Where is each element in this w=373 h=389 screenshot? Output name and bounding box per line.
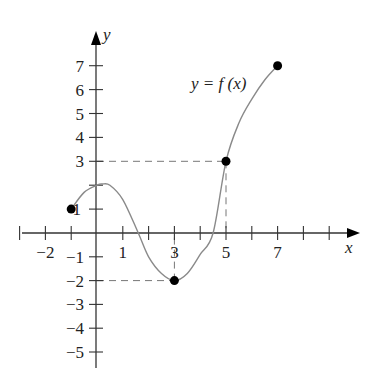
- function-graph: −21357765431−1−2−3−4−5 y x y = f (x): [0, 0, 373, 389]
- x-tick-label: 3: [170, 243, 179, 262]
- dashed-guide-lines: [97, 161, 226, 280]
- y-axis-arrow-icon: [91, 31, 101, 45]
- x-tick-label: 7: [273, 243, 282, 262]
- y-tick-label: −4: [66, 319, 85, 338]
- x-tick-label: 5: [222, 243, 231, 262]
- data-point: [170, 276, 179, 285]
- y-tick-label: 6: [76, 81, 85, 100]
- data-point: [273, 61, 282, 70]
- x-tick-label: −2: [36, 243, 54, 262]
- y-tick-label: −1: [66, 248, 84, 267]
- x-tick-label: 1: [119, 243, 128, 262]
- y-tick-label: −5: [66, 343, 84, 362]
- x-axis-label: x: [344, 238, 353, 257]
- y-tick-label: 7: [76, 57, 85, 76]
- y-tick-label: 5: [76, 105, 85, 124]
- graph-canvas: −21357765431−1−2−3−4−5 y x y = f (x): [0, 0, 373, 389]
- y-tick-label: 3: [76, 152, 85, 171]
- y-tick-label: 4: [76, 128, 85, 147]
- y-tick-label: −3: [66, 295, 84, 314]
- data-point: [222, 157, 231, 166]
- data-point: [67, 205, 76, 214]
- curve-label: y = f (x): [189, 74, 247, 93]
- y-axis-label: y: [101, 25, 111, 44]
- x-axis-arrow-icon: [347, 228, 360, 238]
- y-tick-label: −2: [66, 272, 84, 291]
